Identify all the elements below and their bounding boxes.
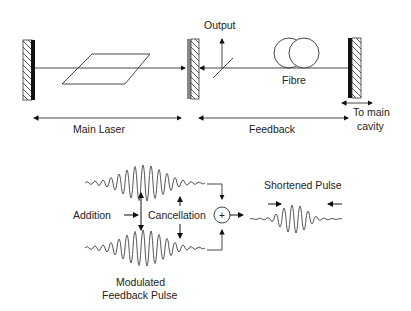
left-mirror-icon	[23, 40, 35, 100]
top-pulse-waveform	[85, 165, 205, 201]
fibre-coil-icon	[274, 38, 319, 68]
output-coupler-mirror-icon	[187, 39, 199, 99]
main-laser-label: Main Laser	[73, 123, 125, 135]
feedback-label: Feedback	[249, 123, 296, 135]
addition-label: Addition	[73, 209, 111, 221]
modulated-label-2: Feedback Pulse	[102, 289, 177, 301]
laser-feedback-diagram: Output Fibre To main cavity Main Laser F…	[0, 0, 411, 311]
to-main-cavity-label-1: To main	[353, 106, 390, 118]
top-feed-line	[207, 184, 222, 199]
summing-junction-icon: +	[214, 207, 230, 223]
svg-text:+: +	[219, 210, 225, 221]
to-main-cavity-label-2: cavity	[357, 120, 385, 132]
diagram-canvas: Output Fibre To main cavity Main Laser F…	[0, 0, 411, 311]
modulated-label-1: Modulated	[116, 276, 165, 288]
fibre-label: Fibre	[282, 74, 306, 86]
bottom-feed-line	[207, 230, 222, 250]
bottom-pulse-waveform	[85, 230, 205, 266]
shortened-pulse-label: Shortened Pulse	[264, 179, 342, 191]
cancellation-label: Cancellation	[148, 209, 206, 221]
shortened-pulse-waveform	[250, 205, 342, 233]
output-label: Output	[204, 19, 236, 31]
right-mirror-icon	[348, 38, 361, 98]
gain-medium-icon	[62, 54, 150, 84]
